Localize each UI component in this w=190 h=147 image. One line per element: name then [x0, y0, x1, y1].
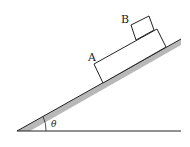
label-b: B [121, 13, 129, 26]
incline-diagram: A B θ [0, 0, 190, 147]
label-a: A [87, 51, 97, 64]
label-theta: θ [51, 119, 57, 129]
diagram-canvas: A B θ [0, 0, 190, 147]
